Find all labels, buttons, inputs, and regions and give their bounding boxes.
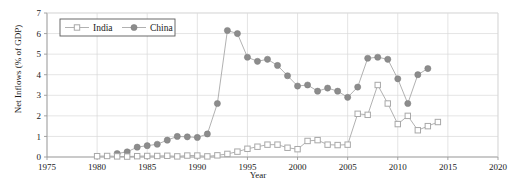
data-point-marker	[345, 94, 351, 100]
data-point-marker	[355, 111, 360, 116]
data-point-marker	[325, 142, 330, 147]
data-point-marker	[214, 100, 220, 106]
y-tick-label: 1	[37, 132, 42, 142]
data-point-marker	[335, 88, 341, 94]
data-point-marker	[124, 154, 129, 159]
legend-marker-china	[131, 24, 137, 30]
y-tick-label: 0	[37, 152, 42, 162]
data-point-marker	[104, 153, 109, 158]
data-point-marker	[365, 55, 371, 61]
data-point-marker	[305, 138, 310, 143]
data-point-marker	[395, 76, 401, 82]
chart-legend: IndiaChina	[60, 19, 175, 36]
data-point-marker	[355, 84, 361, 90]
data-point-marker	[135, 153, 140, 158]
data-point-marker	[375, 54, 381, 60]
data-point-marker	[405, 113, 410, 118]
data-point-marker	[284, 73, 290, 79]
data-point-marker	[375, 82, 380, 87]
data-point-marker	[255, 144, 260, 149]
data-point-marker	[184, 134, 190, 140]
data-point-marker	[174, 133, 180, 139]
x-axis-title: Year	[0, 170, 516, 180]
data-point-marker	[205, 154, 210, 159]
y-tick-label: 7	[37, 8, 42, 18]
data-point-marker	[285, 145, 290, 150]
data-point-marker	[144, 143, 150, 149]
data-point-marker	[134, 144, 140, 150]
data-point-marker	[155, 153, 160, 158]
data-point-marker	[265, 142, 270, 147]
y-tick-label: 2	[37, 111, 42, 121]
data-point-marker	[195, 153, 200, 158]
data-point-marker	[254, 58, 260, 64]
data-point-marker	[385, 101, 390, 106]
data-point-marker	[425, 65, 431, 71]
y-tick-label: 4	[37, 70, 42, 80]
data-point-marker	[94, 153, 99, 158]
data-point-marker	[304, 82, 310, 88]
chart-figure: 1975198019851990199520002005201020152020…	[0, 0, 516, 190]
y-tick-label: 3	[37, 90, 42, 100]
y-axis-ticks: 01234567	[37, 8, 48, 162]
data-point-marker	[185, 153, 190, 158]
data-point-marker	[425, 123, 430, 128]
data-point-marker	[275, 142, 280, 147]
data-point-marker	[315, 137, 320, 142]
data-point-marker	[274, 62, 280, 68]
data-point-marker	[114, 154, 119, 159]
data-point-marker	[365, 112, 370, 117]
legend-label-india: India	[93, 23, 113, 33]
data-point-marker	[395, 121, 400, 126]
data-point-marker	[435, 119, 440, 124]
data-point-marker	[385, 56, 391, 62]
data-point-marker	[415, 72, 421, 78]
data-point-marker	[165, 153, 170, 158]
data-point-marker	[194, 134, 200, 140]
y-tick-label: 5	[37, 49, 42, 59]
data-point-marker	[245, 146, 250, 151]
legend-label-china: China	[150, 23, 173, 33]
data-point-marker	[295, 146, 300, 151]
y-axis-title: Net Inflows (% of GDP)	[13, 0, 23, 139]
data-point-marker	[325, 85, 331, 91]
data-point-marker	[405, 100, 411, 106]
data-point-marker	[335, 142, 340, 147]
data-point-marker	[235, 149, 240, 154]
data-point-marker	[204, 131, 210, 137]
series-china	[114, 27, 431, 156]
data-point-marker	[345, 142, 350, 147]
data-point-marker	[164, 137, 170, 143]
data-point-marker	[215, 153, 220, 158]
data-point-marker	[234, 30, 240, 36]
data-point-marker	[224, 27, 230, 33]
data-point-marker	[175, 154, 180, 159]
data-point-marker	[225, 151, 230, 156]
data-point-marker	[244, 54, 250, 60]
data-point-marker	[145, 153, 150, 158]
legend-marker-india	[74, 25, 79, 30]
data-point-marker	[264, 56, 270, 62]
data-point-marker	[415, 128, 420, 133]
data-point-marker	[294, 83, 300, 89]
data-point-marker	[315, 88, 321, 94]
chart-plot-svg: 1975198019851990199520002005201020152020…	[0, 0, 516, 190]
data-point-marker	[154, 141, 160, 147]
y-tick-label: 6	[37, 29, 42, 39]
